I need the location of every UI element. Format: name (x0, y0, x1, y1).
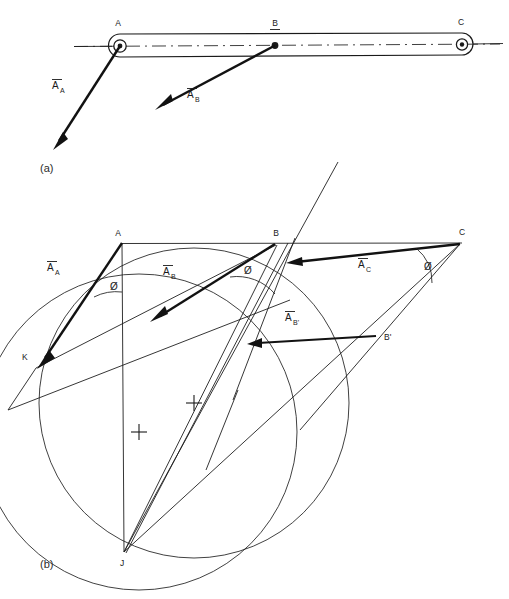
label-point-Bprime: B' (384, 332, 392, 342)
label-vector-A_C-b-sub: C (366, 266, 371, 273)
angle-symbol-at-B: Ø (244, 265, 252, 276)
label-point-C-a: C (458, 17, 464, 27)
cross-center-right (186, 395, 202, 411)
part-a-centerline (74, 44, 500, 47)
part-a-axis-extension-right (473, 44, 503, 45)
label-vector-A_C-b: A (358, 259, 365, 270)
mechanism-diagram: A B C A A A B (a) (0, 0, 509, 599)
label-point-A-b: A (115, 228, 121, 238)
part-b-group: A B C B' K J A A A B A C A B' (0, 162, 465, 590)
label-vector-A_A-a-sub: A (60, 87, 65, 94)
line-A-to-J-vertical (122, 243, 124, 552)
label-point-C-b: C (459, 227, 465, 237)
label-vector-A_B-b-sub: B (171, 273, 176, 280)
part-b-vector-label-A_A: A A (47, 262, 60, 277)
part-a-vector-label-A_B: A B (187, 89, 200, 104)
cross-center-left (131, 424, 147, 440)
line-steep-lower-seg (206, 390, 238, 470)
label-point-B-b: B (273, 228, 279, 238)
angle-symbol-at-A: Ø (110, 281, 118, 292)
part-a-group: A B C A A A B (a) (40, 17, 503, 174)
line-K-extension-lowerleft (8, 368, 36, 410)
angle-symbol-at-C: Ø (424, 261, 432, 272)
circle-through-A-K-J (0, 274, 297, 590)
label-vector-A_A-b-sub: A (55, 269, 60, 276)
line-J-to-C (124, 244, 460, 552)
part-b-vector-label-A_B: A B (163, 266, 176, 281)
label-vector-A_Bprime: A (285, 312, 292, 323)
line-K-to-B (36, 245, 276, 368)
part-b-vector-label-A_C: A C (358, 259, 371, 274)
part-b-vector-A_C (286, 244, 460, 266)
part-b-vector-label-A_Bprime: A B' (285, 312, 299, 327)
label-point-K: K (22, 352, 28, 362)
part-label-a: (a) (40, 162, 53, 174)
part-a-vector-A_A (53, 46, 120, 150)
label-point-A-a: A (115, 18, 121, 28)
label-point-B-a: B (272, 18, 278, 28)
part-a-point-labels: A B C (115, 17, 464, 30)
label-vector-A_B-b: A (163, 266, 170, 277)
line-J-through-B-extended (124, 162, 338, 552)
angle-arc-at-A (94, 292, 122, 297)
label-point-J: J (120, 558, 124, 568)
part-label-b: (b) (40, 558, 53, 570)
line-ABC-top (122, 243, 462, 244)
label-vector-A_B-a-sub: B (195, 96, 200, 103)
figure-root: A B C A A A B (a) (0, 0, 509, 599)
part-a-vector-A_B (155, 46, 275, 111)
label-vector-A_A-a: A (52, 80, 59, 91)
label-vector-A_A-b: A (47, 262, 54, 273)
line-C-to-lowerleft (300, 244, 460, 430)
label-vector-A_Bprime-sub: B' (293, 319, 299, 326)
part-a-vector-label-A_A: A A (52, 80, 65, 95)
joint-C (456, 39, 467, 50)
angle-arc-at-B (230, 277, 275, 294)
label-vector-A_B-a: A (187, 89, 194, 100)
